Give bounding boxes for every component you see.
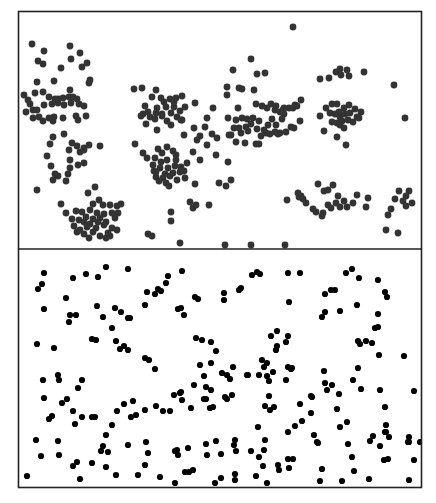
data-point [191, 382, 197, 388]
data-point [210, 404, 216, 410]
data-point [166, 183, 173, 190]
data-point [290, 24, 297, 31]
data-point [328, 205, 335, 212]
data-point [63, 295, 69, 301]
data-point [101, 222, 108, 229]
data-point [274, 328, 280, 334]
data-point [191, 125, 198, 132]
data-point [239, 86, 246, 93]
data-point [235, 105, 242, 112]
data-point [265, 122, 272, 129]
data-point [385, 456, 391, 462]
data-point [58, 65, 65, 72]
data-point [409, 200, 416, 207]
data-point [87, 221, 94, 228]
data-point [109, 422, 115, 428]
data-point [118, 201, 125, 208]
data-point [149, 233, 156, 240]
data-point [172, 480, 178, 486]
data-point [95, 219, 102, 226]
data-point [224, 372, 230, 378]
data-point [81, 103, 88, 110]
data-point [34, 187, 41, 194]
data-point [299, 418, 305, 424]
data-point [297, 118, 304, 125]
data-point [349, 454, 355, 460]
data-point [206, 202, 213, 209]
data-point [23, 109, 30, 116]
data-point [165, 165, 172, 172]
data-point [55, 438, 61, 444]
data-point [383, 422, 389, 428]
data-point [317, 113, 324, 120]
background [0, 0, 436, 503]
data-point [154, 127, 161, 134]
data-point [190, 467, 196, 473]
data-point [167, 173, 174, 180]
data-point [29, 41, 36, 48]
data-point [83, 113, 90, 120]
data-point [39, 281, 45, 287]
data-point [40, 118, 47, 125]
data-point [92, 414, 98, 420]
data-point [50, 118, 57, 125]
data-point [67, 87, 74, 94]
data-point [350, 377, 356, 383]
data-point [60, 95, 67, 102]
data-point [113, 338, 119, 344]
data-point [315, 440, 321, 446]
data-point [168, 218, 175, 225]
data-point [297, 270, 303, 276]
data-point [218, 451, 224, 457]
data-point [230, 364, 236, 370]
data-point [322, 291, 328, 297]
data-point [66, 319, 72, 325]
data-point [366, 476, 372, 482]
data-point [38, 453, 44, 459]
data-point [271, 404, 277, 410]
data-point [376, 352, 382, 358]
data-point [324, 387, 330, 393]
data-point [311, 432, 317, 438]
data-point [168, 110, 175, 117]
data-point [179, 397, 185, 403]
data-point [228, 177, 235, 184]
data-point [195, 296, 201, 302]
data-point [165, 273, 171, 279]
data-point [248, 56, 255, 63]
data-point [253, 101, 260, 108]
data-point [67, 157, 74, 164]
data-point [233, 448, 239, 454]
data-point [225, 159, 232, 166]
data-point [319, 466, 325, 472]
data-point [375, 277, 381, 283]
data-point [233, 117, 240, 124]
data-point [133, 412, 139, 418]
data-point [50, 177, 57, 184]
data-point [167, 408, 173, 414]
data-point [233, 139, 240, 146]
data-point [197, 362, 203, 368]
data-point [164, 144, 171, 151]
data-point [51, 345, 57, 351]
data-point [41, 48, 48, 55]
data-point [68, 56, 75, 63]
data-point [225, 115, 232, 122]
data-point [335, 193, 342, 200]
data-point [213, 348, 219, 354]
data-point [264, 480, 270, 486]
data-point [204, 452, 210, 458]
data-point [181, 312, 187, 318]
data-point [115, 210, 122, 217]
data-point [303, 200, 310, 207]
data-point [384, 294, 390, 300]
data-point [250, 115, 257, 122]
data-point [49, 413, 55, 419]
data-point [308, 393, 314, 399]
data-point [151, 168, 158, 175]
data-point [90, 229, 97, 236]
data-point [146, 357, 152, 363]
data-point [109, 325, 115, 331]
data-point [350, 200, 357, 207]
data-point [93, 337, 99, 343]
